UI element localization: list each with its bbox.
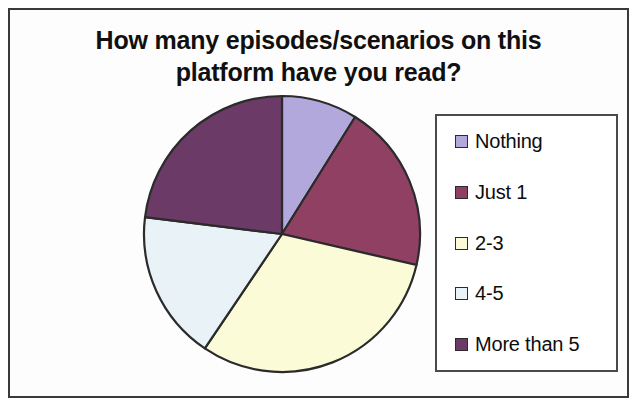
legend-item-just-1[interactable]: Just 1	[455, 181, 616, 204]
legend-label-just-1: Just 1	[475, 181, 527, 204]
legend-label-nothing: Nothing	[475, 130, 543, 153]
legend-swatch-nothing	[455, 135, 468, 148]
pie-slice-more-than-5[interactable]	[145, 96, 282, 234]
legend-item-2-3[interactable]: 2-3	[455, 232, 616, 255]
chart-title-line-1: How many episodes/scenarios on this	[56, 24, 581, 56]
legend-item-4-5[interactable]: 4-5	[455, 282, 616, 305]
chart-legend: Nothing Just 1 2-3 4-5 More than 5	[435, 114, 618, 372]
chart-frame: How many episodes/scenarios on this plat…	[8, 8, 629, 398]
legend-swatch-4-5	[455, 287, 468, 300]
legend-label-more-than-5: More than 5	[475, 333, 580, 356]
legend-swatch-just-1	[455, 186, 468, 199]
pie-chart-svg	[140, 92, 424, 376]
pie-slice-group	[144, 96, 420, 372]
legend-swatch-more-than-5	[455, 338, 468, 351]
legend-swatch-2-3	[455, 237, 468, 250]
chart-title-line-2: platform have you read?	[56, 56, 581, 88]
pie-chart	[140, 92, 424, 376]
legend-item-nothing[interactable]: Nothing	[455, 130, 616, 153]
legend-label-4-5: 4-5	[475, 282, 503, 305]
legend-label-2-3: 2-3	[475, 232, 503, 255]
legend-item-more-than-5[interactable]: More than 5	[455, 333, 616, 356]
chart-title: How many episodes/scenarios on this plat…	[10, 24, 627, 88]
